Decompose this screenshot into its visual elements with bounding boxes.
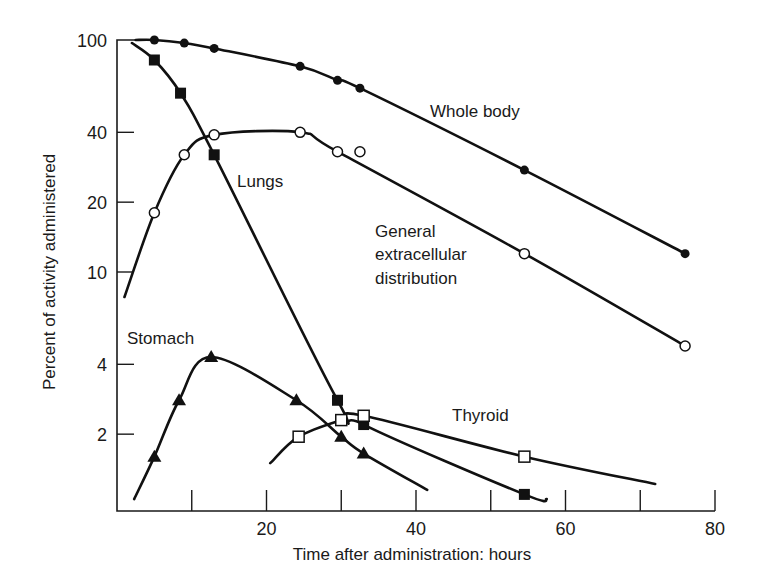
data-point-filled-circle	[180, 39, 189, 48]
data-point-open-square	[519, 451, 530, 462]
data-point-filled-square	[332, 395, 343, 406]
data-point-filled-circle	[296, 62, 305, 71]
y-tick-label: 40	[87, 123, 107, 143]
data-point-open-circle	[519, 249, 529, 259]
y-tick-label: 10	[87, 263, 107, 283]
data-point-open-square	[358, 410, 369, 421]
y-axis-ticks: 24102040100	[77, 31, 134, 445]
data-point-filled-circle	[333, 76, 342, 85]
y-tick-label: 20	[87, 193, 107, 213]
data-point-open-square	[336, 415, 347, 426]
label-thyroid: Thyroid	[452, 406, 509, 425]
x-tick-label: 60	[555, 519, 575, 539]
data-point-open-circle	[355, 147, 365, 157]
data-point-filled-square	[519, 489, 530, 500]
data-point-open-circle	[295, 127, 305, 137]
data-point-open-circle	[333, 147, 343, 157]
label-lungs: Lungs	[237, 172, 283, 191]
data-point-filled-circle	[150, 36, 159, 45]
data-point-filled-triangle	[357, 447, 371, 459]
y-tick-label: 4	[97, 355, 107, 375]
y-tick-label: 2	[97, 425, 107, 445]
data-point-open-square	[293, 431, 304, 442]
data-point-filled-square	[209, 149, 220, 160]
x-tick-label: 20	[256, 519, 276, 539]
data-point-filled-circle	[355, 84, 364, 93]
label-general-3: distribution	[375, 269, 457, 288]
decay-chart: 24102040100 20406080 Time after administ…	[0, 0, 765, 586]
y-axis-title: Percent of activity administered	[40, 154, 59, 390]
data-point-filled-triangle	[289, 393, 303, 405]
data-point-filled-square	[149, 54, 160, 65]
data-point-open-circle	[680, 341, 690, 351]
data-point-filled-square	[175, 88, 186, 99]
x-axis-ticks: 20406080	[192, 490, 725, 539]
data-point-filled-circle	[520, 166, 529, 175]
label-whole-body: Whole body	[430, 102, 520, 121]
label-general-1: General	[375, 222, 435, 241]
data-point-filled-triangle	[147, 450, 161, 462]
data-point-filled-triangle	[172, 393, 186, 405]
data-point-open-circle	[149, 208, 159, 218]
x-axis-title: Time after administration: hours	[293, 545, 531, 564]
label-stomach: Stomach	[127, 329, 194, 348]
data-point-open-circle	[209, 130, 219, 140]
x-tick-label: 80	[705, 519, 725, 539]
data-point-filled-circle	[210, 44, 219, 53]
curve-stomach	[134, 357, 427, 499]
label-general-2: extracellular	[375, 245, 467, 264]
data-point-filled-triangle	[204, 350, 218, 362]
y-tick-label: 100	[77, 31, 107, 51]
data-point-filled-circle	[681, 249, 690, 258]
data-point-open-circle	[179, 150, 189, 160]
x-tick-label: 40	[406, 519, 426, 539]
